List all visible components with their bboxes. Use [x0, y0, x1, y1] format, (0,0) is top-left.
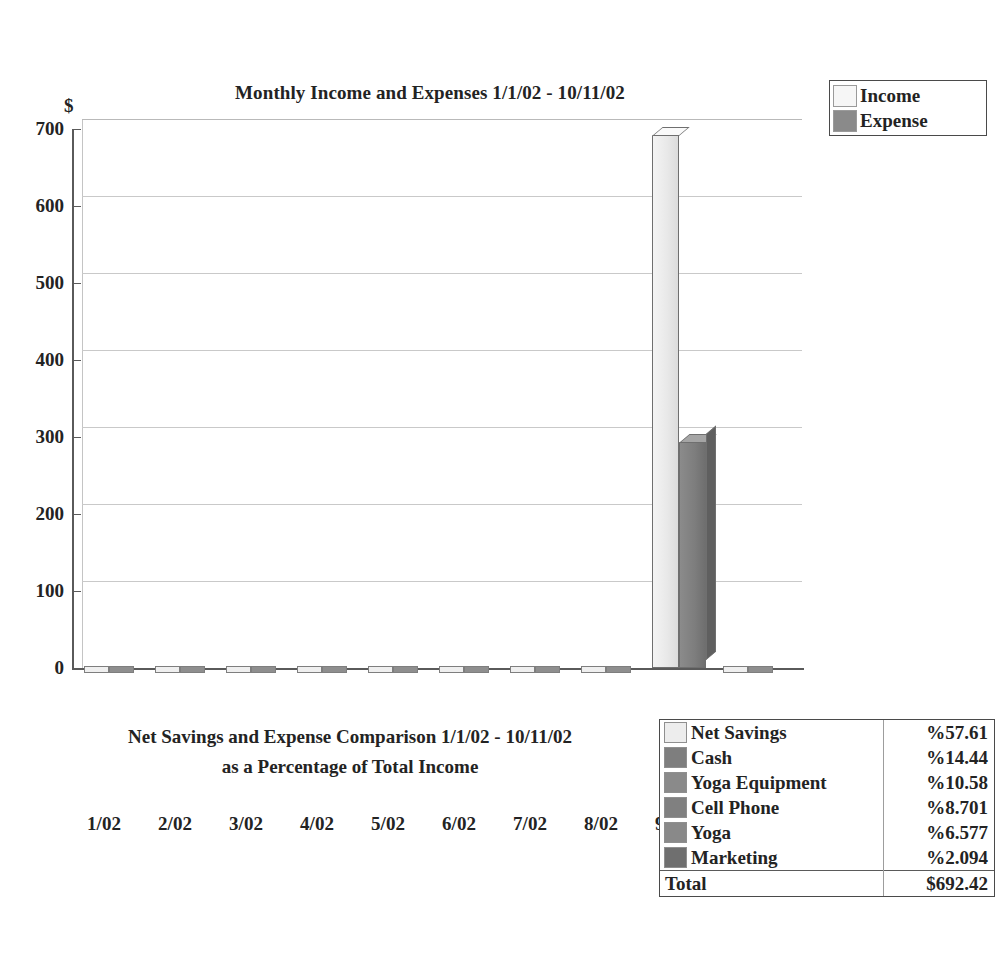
bar-income-6-02: [439, 666, 464, 673]
row-value-net-savings: %57.61: [884, 720, 995, 745]
y-tick-mark-200: [72, 514, 81, 515]
gridline-300: [82, 427, 802, 428]
bar-income-10-02: [723, 666, 748, 673]
y-axis-line: [72, 129, 74, 668]
bar-income-8-02: [581, 666, 606, 673]
table-row: Net Savings %57.61: [660, 720, 994, 745]
bar-income-1-02: [84, 666, 109, 673]
row-value-yoga: %6.577: [884, 820, 995, 845]
y-tick-mark-300: [72, 437, 81, 438]
bar-income-9-02: [652, 135, 679, 668]
table-row: Cash %14.44: [660, 745, 994, 770]
y-tick-label-100: 100: [6, 581, 64, 600]
summary-caption-line-1: Net Savings and Expense Comparison 1/1/0…: [40, 722, 660, 752]
row-label-total: Total: [660, 871, 884, 897]
table-row-total: Total $692.42: [660, 871, 994, 897]
gridline-600: [82, 196, 802, 197]
y-tick-label-700: 700: [6, 119, 64, 138]
row-value-marketing: %2.094: [884, 845, 995, 871]
row-label-net-savings: Net Savings: [660, 720, 884, 745]
bar-chart: 700 600 500 400 300 200 100 0: [0, 0, 1005, 720]
bar-expense-6-02: [464, 666, 489, 673]
label-text-net-savings: Net Savings: [691, 720, 787, 745]
bar-expense-2-02: [180, 666, 205, 673]
row-label-yoga: Yoga: [660, 820, 884, 845]
y-tick-label-200: 200: [6, 504, 64, 523]
bar-expense-5-02: [393, 666, 418, 673]
bar-income-9-02-top: [652, 127, 690, 136]
swatch-cash: [664, 747, 687, 768]
y-tick-label-500: 500: [6, 273, 64, 292]
swatch-cell-phone: [664, 797, 687, 818]
bar-income-2-02: [155, 666, 180, 673]
table-row: Yoga Equipment %10.58: [660, 770, 994, 795]
swatch-yoga: [664, 822, 687, 843]
bar-income-5-02: [368, 666, 393, 673]
bar-income-4-02: [297, 666, 322, 673]
row-label-cash: Cash: [660, 745, 884, 770]
summary-caption: Net Savings and Expense Comparison 1/1/0…: [40, 722, 660, 782]
summary-table: Net Savings %57.61 Cash %14.44: [659, 719, 995, 897]
y-tick-label-600: 600: [6, 196, 64, 215]
bar-expense-9-02-side: [706, 426, 716, 660]
report-page: $ Monthly Income and Expenses 1/1/02 - 1…: [0, 0, 1005, 955]
y-tick-label-300: 300: [6, 427, 64, 446]
label-text-cash: Cash: [691, 745, 732, 770]
label-text-marketing: Marketing: [691, 845, 778, 870]
bar-income-9-02-face: [652, 135, 679, 668]
bar-expense-1-02: [109, 666, 134, 673]
swatch-net-savings: [664, 722, 687, 743]
row-label-marketing: Marketing: [660, 845, 884, 871]
summary-caption-line-2: as a Percentage of Total Income: [40, 752, 660, 782]
y-tick-mark-400: [72, 360, 81, 361]
y-tick-mark-700: [72, 129, 81, 130]
bar-expense-8-02: [606, 666, 631, 673]
plot-back-left-edge: [82, 119, 83, 668]
gridline-400: [82, 350, 802, 351]
row-value-cell-phone: %8.701: [884, 795, 995, 820]
table-row: Yoga %6.577: [660, 820, 994, 845]
label-text-cell-phone: Cell Phone: [691, 795, 779, 820]
row-value-total: $692.42: [884, 871, 995, 897]
bar-income-7-02: [510, 666, 535, 673]
label-text-yoga: Yoga: [691, 820, 731, 845]
bar-expense-7-02: [535, 666, 560, 673]
label-text-yoga-equipment: Yoga Equipment: [691, 770, 827, 795]
y-tick-mark-100: [72, 591, 81, 592]
table-row: Marketing %2.094: [660, 845, 994, 871]
bar-income-3-02: [226, 666, 251, 673]
plot-area: 700 600 500 400 300 200 100 0: [72, 139, 802, 668]
gridline-500: [82, 273, 802, 274]
swatch-yoga-equipment: [664, 772, 687, 793]
bar-expense-9-02-face: [679, 442, 706, 668]
bar-expense-4-02: [322, 666, 347, 673]
y-tick-label-0: 0: [6, 658, 64, 677]
y-tick-mark-500: [72, 283, 81, 284]
bar-expense-3-02: [251, 666, 276, 673]
bar-expense-9-02: [679, 442, 706, 668]
swatch-marketing: [664, 847, 687, 868]
y-tick-label-400: 400: [6, 350, 64, 369]
table-row: Cell Phone %8.701: [660, 795, 994, 820]
y-tick-mark-600: [72, 206, 81, 207]
gridline-700: [82, 119, 802, 120]
row-value-yoga-equipment: %10.58: [884, 770, 995, 795]
row-value-cash: %14.44: [884, 745, 995, 770]
row-label-cell-phone: Cell Phone: [660, 795, 884, 820]
bar-expense-10-02: [748, 666, 773, 673]
row-label-yoga-equipment: Yoga Equipment: [660, 770, 884, 795]
